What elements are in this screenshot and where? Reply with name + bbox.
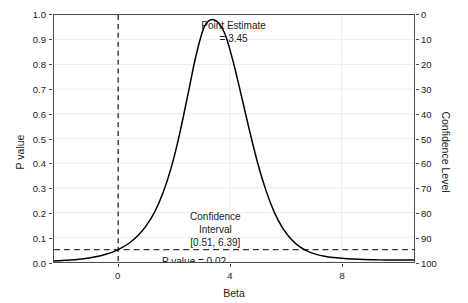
y-tick-label: 0.3 [12, 183, 46, 194]
y-tick-label: 0.7 [12, 84, 46, 95]
y2-tick-mark [416, 39, 419, 40]
y2-tick-mark [416, 89, 419, 90]
y2-tick-label: 90 [421, 233, 455, 244]
x-tick-mark [118, 264, 119, 267]
y2-tick-mark [416, 263, 419, 264]
confidence-line-1: Confidence [190, 210, 241, 223]
y2-tick-label: 30 [421, 84, 455, 95]
y-tick-mark [49, 64, 52, 65]
x-tick-label: 0 [98, 270, 138, 281]
x-tick-label: 4 [210, 270, 250, 281]
y-tick-label: 0.9 [12, 34, 46, 45]
y2-tick-mark [416, 114, 419, 115]
annotation-p-value: P value = 0.02 [162, 255, 226, 263]
x-tick-label: 8 [322, 270, 362, 281]
p-value-function-chart: Point Estimate = 3.45 Confidence Interva… [0, 0, 468, 303]
y2-tick-label: 0 [421, 9, 455, 20]
y-tick-label: 1.0 [12, 9, 46, 20]
y2-axis-title: Confidence Level [439, 111, 451, 192]
y-tick-label: 0.2 [12, 208, 46, 219]
y-tick-mark [49, 188, 52, 189]
y-axis-title: P value [14, 134, 26, 169]
y-tick-mark [49, 114, 52, 115]
y2-tick-mark [416, 14, 419, 15]
point-estimate-line-2: = 3.45 [201, 32, 265, 45]
y-tick-label: 0.1 [12, 233, 46, 244]
y-tick-label: 0.0 [12, 258, 46, 269]
y2-tick-mark [416, 64, 419, 65]
annotation-point-estimate: Point Estimate = 3.45 [201, 19, 265, 45]
y2-tick-label: 20 [421, 59, 455, 70]
x-axis-title: Beta [0, 287, 468, 299]
y-tick-mark [49, 14, 52, 15]
y-tick-mark [49, 163, 52, 164]
confidence-line-3: [0.51, 6.39] [190, 236, 241, 249]
y2-tick-label: 100 [421, 258, 455, 269]
y-tick-mark [49, 39, 52, 40]
y2-tick-mark [416, 213, 419, 214]
x-tick-mark [230, 264, 231, 267]
y-tick-label: 0.8 [12, 59, 46, 70]
y-tick-mark [49, 89, 52, 90]
y-tick-mark [49, 213, 52, 214]
plot-panel: Point Estimate = 3.45 Confidence Interva… [53, 14, 415, 263]
y-tick-mark [49, 238, 52, 239]
y2-tick-mark [416, 188, 419, 189]
y2-tick-label: 80 [421, 208, 455, 219]
x-tick-mark [342, 264, 343, 267]
annotation-confidence-interval: Confidence Interval [0.51, 6.39] [190, 210, 241, 249]
y2-tick-mark [416, 139, 419, 140]
y-tick-mark [49, 139, 52, 140]
y2-tick-mark [416, 163, 419, 164]
point-estimate-line-1: Point Estimate [201, 19, 265, 32]
y2-tick-label: 10 [421, 34, 455, 45]
y2-tick-mark [416, 238, 419, 239]
y-tick-mark [49, 263, 52, 264]
y-tick-label: 0.6 [12, 109, 46, 120]
p-value-text: P value = 0.02 [162, 255, 226, 263]
confidence-line-2: Interval [190, 223, 241, 236]
